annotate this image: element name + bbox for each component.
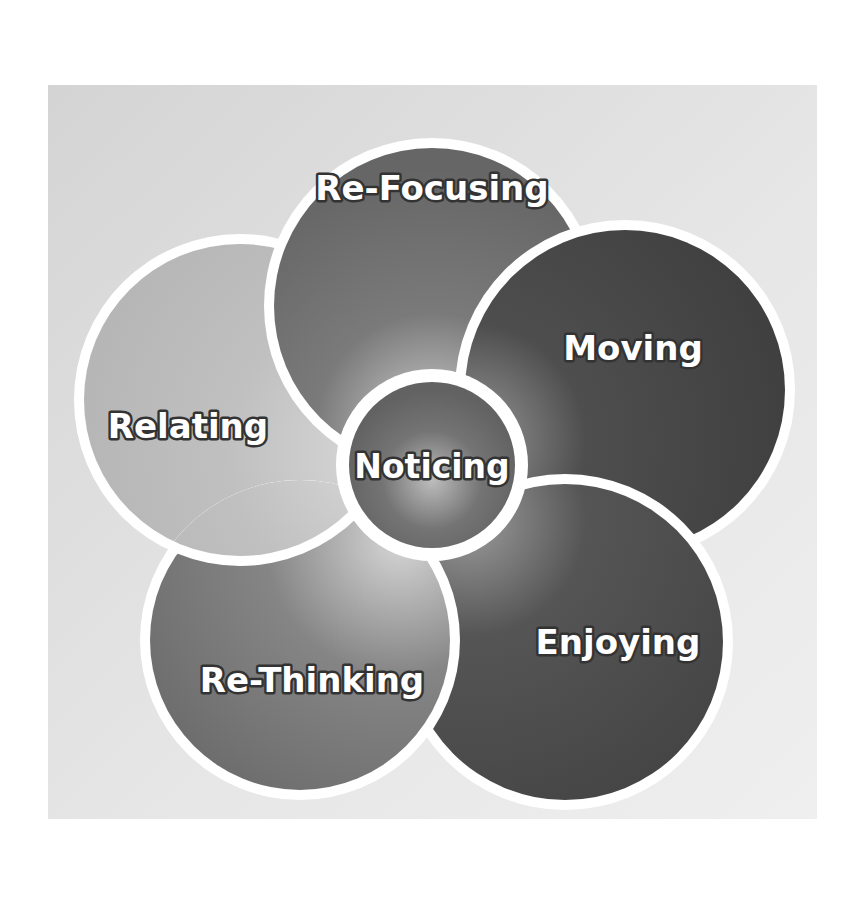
label-re-focusing: Re-Focusing	[315, 168, 548, 208]
wellbeing-pinwheel-diagram: Re-Focusing Moving Enjoying Re-Thinking …	[0, 0, 862, 897]
label-moving: Moving	[563, 328, 703, 368]
label-re-thinking: Re-Thinking	[200, 660, 424, 700]
label-relating: Relating	[108, 406, 268, 446]
label-noticing: Noticing	[354, 447, 509, 486]
label-enjoying: Enjoying	[536, 622, 701, 662]
